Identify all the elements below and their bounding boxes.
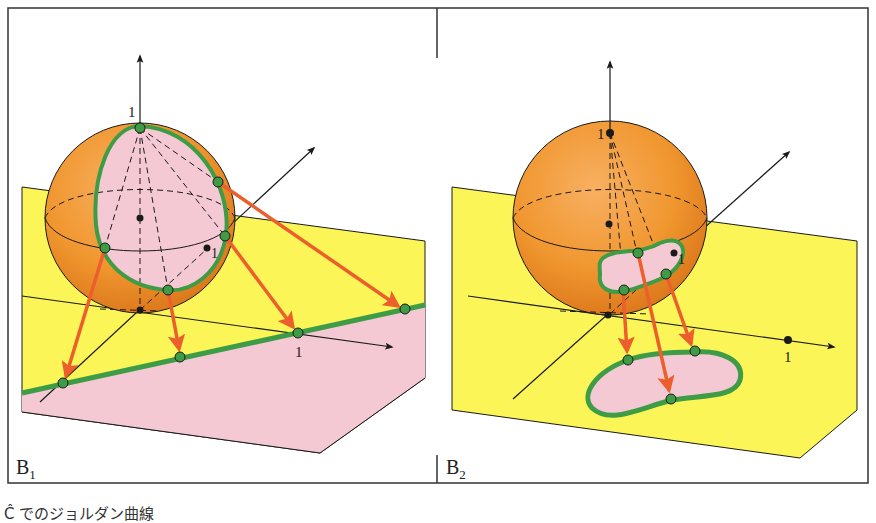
x-tick-label: 1 bbox=[784, 349, 792, 365]
y-tick-label: 1 bbox=[678, 252, 685, 267]
origin-point bbox=[137, 307, 144, 314]
north-pole-point bbox=[606, 129, 614, 137]
panel-b2: 1 1 1 bbox=[452, 62, 857, 458]
center-point bbox=[137, 215, 144, 222]
origin-point bbox=[605, 312, 612, 319]
x-unit-point bbox=[784, 336, 792, 344]
center-point bbox=[606, 221, 613, 228]
z-tick-label: 1 bbox=[597, 126, 605, 142]
x-tick-label: 1 bbox=[295, 344, 303, 360]
panel-label-b1: B1 bbox=[16, 456, 36, 483]
panel-label-b2: B2 bbox=[446, 456, 466, 483]
figure-caption: Ĉ でのジョルダン曲線 bbox=[4, 505, 154, 523]
y-tick-label: 1 bbox=[211, 246, 218, 261]
panel-b1: 1 1 1 bbox=[22, 56, 425, 453]
i-point bbox=[204, 245, 211, 252]
i-point bbox=[671, 250, 678, 257]
z-tick-label: 1 bbox=[128, 104, 136, 120]
